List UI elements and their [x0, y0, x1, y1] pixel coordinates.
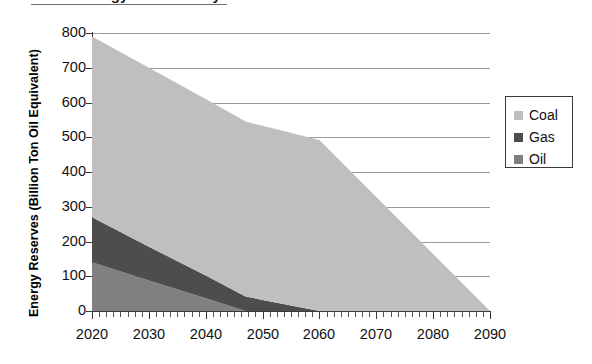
y-tick-label: 400 — [40, 163, 86, 179]
x-tick-minor — [362, 312, 363, 317]
y-tick-label: 700 — [40, 59, 86, 75]
x-tick-minor — [348, 312, 349, 317]
x-tick-minor — [483, 312, 484, 317]
x-tick-minor — [170, 312, 171, 317]
x-tick-minor — [184, 312, 185, 317]
y-tick-label: 200 — [40, 233, 86, 249]
x-tick-minor — [398, 312, 399, 317]
x-tick-label: 2060 — [289, 326, 349, 342]
x-tick-minor — [355, 312, 356, 317]
x-tick-minor — [177, 312, 178, 317]
y-tick-label: 300 — [40, 198, 86, 214]
x-tick-minor — [327, 312, 328, 317]
legend-swatch-oil — [514, 155, 523, 164]
x-tick-label: 2070 — [346, 326, 406, 342]
x-tick-major — [206, 312, 207, 319]
x-tick-minor — [383, 312, 384, 317]
x-tick-minor — [447, 312, 448, 317]
y-axis-title: Energy Reserves (Billion Ton Oil Equival… — [27, 18, 41, 348]
legend-item-gas[interactable]: Gas — [514, 126, 572, 148]
x-tick-minor — [199, 312, 200, 317]
x-tick-minor — [334, 312, 335, 317]
legend-label-coal: Coal — [529, 108, 558, 122]
x-tick-label: 2080 — [403, 326, 463, 342]
x-tick-minor — [248, 312, 249, 317]
legend-swatch-gas — [514, 133, 523, 142]
x-tick-minor — [305, 312, 306, 317]
x-tick-minor — [113, 312, 114, 317]
x-tick-minor — [426, 312, 427, 317]
legend: Coal Gas Oil — [505, 96, 573, 168]
legend-label-oil: Oil — [529, 152, 546, 166]
y-tick-label: 100 — [40, 267, 86, 283]
x-tick-major — [319, 312, 320, 319]
x-tick-minor — [163, 312, 164, 317]
x-tick-minor — [99, 312, 100, 317]
x-tick-label: 2040 — [176, 326, 236, 342]
x-tick-minor — [135, 312, 136, 317]
legend-item-coal[interactable]: Coal — [514, 104, 572, 126]
chart-title: World Energy Reserves by Fuel — [31, 0, 227, 5]
x-tick-minor — [213, 312, 214, 317]
x-tick-minor — [234, 312, 235, 317]
x-tick-minor — [341, 312, 342, 317]
legend-swatch-coal — [514, 111, 523, 120]
x-tick-minor — [440, 312, 441, 317]
x-tick-major — [263, 312, 264, 319]
chart-root: World Energy Reserves by Fuel Energy Res… — [0, 0, 592, 364]
x-tick-minor — [277, 312, 278, 317]
x-tick-major — [92, 312, 93, 319]
y-tick-label: 800 — [40, 24, 86, 40]
x-tick-major — [149, 312, 150, 319]
x-tick-minor — [419, 312, 420, 317]
x-tick-minor — [405, 312, 406, 317]
x-tick-minor — [469, 312, 470, 317]
x-tick-label: 2020 — [62, 326, 122, 342]
x-tick-label: 2030 — [119, 326, 179, 342]
y-tick-label: 0 — [40, 302, 86, 318]
x-tick-label: 2050 — [233, 326, 293, 342]
x-tick-minor — [120, 312, 121, 317]
x-tick-minor — [312, 312, 313, 317]
chart-title-cropped: World Energy Reserves by Fuel — [31, 0, 231, 11]
x-tick-minor — [220, 312, 221, 317]
legend-item-oil[interactable]: Oil — [514, 148, 572, 170]
plot-area — [92, 33, 490, 311]
x-tick-minor — [106, 312, 107, 317]
x-tick-label: 2090 — [460, 326, 520, 342]
x-tick-major — [433, 312, 434, 319]
legend-label-gas: Gas — [529, 130, 555, 144]
x-tick-minor — [298, 312, 299, 317]
x-tick-minor — [291, 312, 292, 317]
x-tick-major — [376, 312, 377, 319]
x-tick-minor — [284, 312, 285, 317]
x-tick-minor — [270, 312, 271, 317]
x-tick-minor — [369, 312, 370, 317]
x-tick-minor — [255, 312, 256, 317]
x-tick-minor — [227, 312, 228, 317]
stacked-area-series — [92, 33, 490, 311]
x-tick-minor — [241, 312, 242, 317]
x-tick-minor — [412, 312, 413, 317]
y-tick-label: 500 — [40, 128, 86, 144]
x-tick-major — [490, 312, 491, 319]
x-tick-minor — [128, 312, 129, 317]
x-tick-minor — [142, 312, 143, 317]
x-tick-minor — [156, 312, 157, 317]
y-tick-label: 600 — [40, 94, 86, 110]
x-tick-minor — [192, 312, 193, 317]
x-tick-minor — [476, 312, 477, 317]
x-tick-minor — [391, 312, 392, 317]
x-tick-minor — [454, 312, 455, 317]
x-tick-minor — [462, 312, 463, 317]
